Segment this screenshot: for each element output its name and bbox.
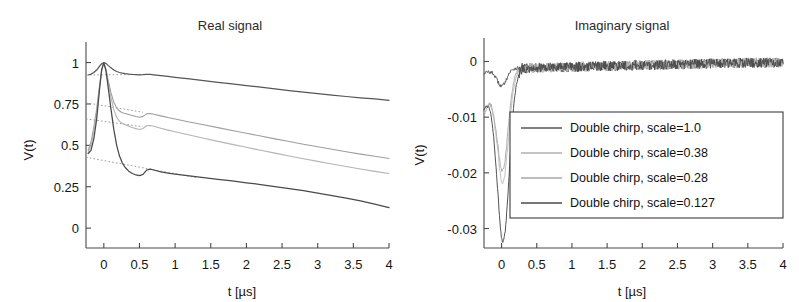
x-tick-label: 1 <box>568 257 575 272</box>
x-tick-label: 2.5 <box>273 257 291 272</box>
x-axis-label-real: t [µs] <box>228 284 256 299</box>
y-tick-label: 0.25 <box>54 180 79 195</box>
y-tick-label: 0 <box>470 54 477 69</box>
legend-item-label: Double chirp, scale=0.127 <box>570 196 715 210</box>
legend: Double chirp, scale=1.0Double chirp, sca… <box>510 112 783 218</box>
y-tick-label: 0 <box>72 221 79 236</box>
x-tick-label: 3 <box>709 257 716 272</box>
y-tick-label: 0.5 <box>61 138 79 153</box>
curve-real-2 <box>88 63 389 174</box>
x-tick-label: 3.5 <box>344 257 362 272</box>
y-tick-label: -0.03 <box>447 222 477 237</box>
x-tick-label: 3.5 <box>739 257 757 272</box>
curve-real-0 <box>88 63 389 101</box>
x-tick-label: 0 <box>100 257 107 272</box>
x-tick-label: 3 <box>314 257 321 272</box>
x-tick-label: 2 <box>639 257 646 272</box>
panel-real-signal: Real signal V(t) t [µs] 00.250.50.75100.… <box>0 0 399 302</box>
y-tick-label: 0.75 <box>54 97 79 112</box>
imaginary-signal-plot: Imaginary signal V(t) t [µs] 0-0.01-0.02… <box>400 0 799 302</box>
legend-item-label: Double chirp, scale=1.0 <box>570 121 701 135</box>
x-tick-label: 0.5 <box>528 257 546 272</box>
plot-title-imaginary: Imaginary signal <box>575 18 670 33</box>
x-tick-label: 0 <box>498 257 505 272</box>
x-tick-label: 1.5 <box>598 257 616 272</box>
real-axes-group: 00.250.50.75100.511.522.533.54 <box>54 42 393 272</box>
y-tick-label: -0.01 <box>447 110 477 125</box>
x-tick-label: 2 <box>243 257 250 272</box>
y-tick-label: 1 <box>72 56 79 71</box>
real-signal-plot: Real signal V(t) t [µs] 00.250.50.75100.… <box>0 0 399 302</box>
x-axis-label-imaginary: t [µs] <box>618 284 646 299</box>
x-tick-label: 0.5 <box>130 257 148 272</box>
x-tick-label: 4 <box>385 257 392 272</box>
plot-title-real: Real signal <box>198 18 262 33</box>
curve-real-1 <box>88 63 389 159</box>
y-axis-label-real: V(t) <box>21 140 36 161</box>
legend-item-label: Double chirp, scale=0.38 <box>570 146 708 160</box>
x-tick-label: 1 <box>172 257 179 272</box>
panel-imaginary-signal: Imaginary signal V(t) t [µs] 0-0.01-0.02… <box>400 0 799 302</box>
figure-root: Real signal V(t) t [µs] 00.250.50.75100.… <box>0 0 799 302</box>
y-tick-label: -0.02 <box>447 166 477 181</box>
real-curves-group <box>86 63 389 208</box>
x-tick-label: 4 <box>779 257 786 272</box>
x-tick-label: 1.5 <box>202 257 220 272</box>
y-axis-label-imaginary: V(t) <box>412 145 427 166</box>
x-tick-label: 2.5 <box>668 257 686 272</box>
legend-item-label: Double chirp, scale=0.28 <box>570 171 708 185</box>
